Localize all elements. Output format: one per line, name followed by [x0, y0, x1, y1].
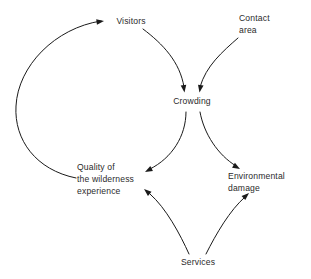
node-label-environmental-damage-line-1: Environmental: [228, 171, 285, 181]
edge-services-to-environmental-damage: [206, 191, 251, 254]
node-label-quality-line-1: Quality of: [77, 162, 115, 172]
edge-services-to-quality: [142, 187, 189, 254]
node-label-crowding: Crowding: [173, 96, 211, 106]
node-label-quality-line-2: the wilderness: [77, 174, 134, 184]
edge-visitors-to-crowding: [143, 29, 187, 93]
edge-path-quality-to-visitors: [16, 21, 101, 178]
edge-group: [16, 18, 251, 254]
arrowhead-quality-to-visitors: [96, 18, 104, 25]
edge-path-services-to-environmental-damage: [206, 197, 245, 254]
diagram-canvas: Visitors Contact area Crowding Quality o…: [0, 0, 311, 279]
node-label-quality-line-3: experience: [77, 186, 121, 196]
arrowhead-visitors-to-crowding: [181, 85, 188, 93]
node-group: Visitors Contact area Crowding Quality o…: [77, 13, 285, 267]
node-label-visitors: Visitors: [116, 16, 145, 26]
edge-path-visitors-to-crowding: [143, 29, 184, 87]
node-label-environmental-damage: Environmental damage: [228, 171, 285, 193]
node-label-quality-of-the-wilderness-experience: Quality of the wilderness experience: [77, 162, 134, 196]
edge-path-contact-area-to-crowding: [200, 38, 238, 87]
node-label-contact-area-line-2: area: [239, 25, 257, 35]
edge-path-crowding-to-environmental-damage: [200, 112, 236, 166]
node-label-contact-area-line-1: Contact: [239, 13, 270, 23]
edge-crowding-to-environmental-damage: [200, 112, 241, 171]
node-label-environmental-damage-line-2: damage: [228, 183, 260, 193]
edge-crowding-to-quality: [144, 112, 186, 174]
edge-contact-area-to-crowding: [197, 38, 238, 93]
node-label-services: Services: [181, 257, 215, 267]
node-label-contact-area: Contact area: [239, 13, 270, 35]
arrowhead-contact-area-to-crowding: [197, 85, 204, 93]
edge-path-services-to-quality: [150, 194, 189, 254]
edge-quality-to-visitors: [16, 18, 105, 178]
edge-path-crowding-to-quality: [150, 112, 186, 169]
causal-loop-diagram: Visitors Contact area Crowding Quality o…: [0, 0, 311, 279]
arrowhead-crowding-to-quality: [144, 166, 153, 174]
